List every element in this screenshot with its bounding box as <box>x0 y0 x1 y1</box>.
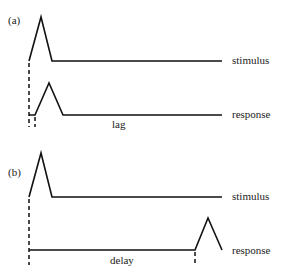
panel-a-response-label: response <box>232 108 271 120</box>
panel-a-interval-label: lag <box>112 118 126 130</box>
panel-a: (a) stimulus response lag <box>8 14 271 130</box>
stimulus-response-diagram: (a) stimulus response lag (b) stimulus r… <box>0 0 285 278</box>
panel-b-label: (b) <box>8 166 21 179</box>
panel-b-response-trace <box>29 218 222 250</box>
panel-a-label: (a) <box>8 14 21 27</box>
panel-a-stimulus-trace <box>29 17 222 61</box>
panel-a-stimulus-label: stimulus <box>232 54 269 66</box>
panel-b: (b) stimulus response delay <box>8 153 271 266</box>
panel-a-response-trace <box>29 83 222 115</box>
panel-b-response-label: response <box>232 244 271 256</box>
panel-b-stimulus-label: stimulus <box>232 190 269 202</box>
panel-b-stimulus-trace <box>29 153 222 197</box>
panel-b-interval-label: delay <box>110 254 134 266</box>
